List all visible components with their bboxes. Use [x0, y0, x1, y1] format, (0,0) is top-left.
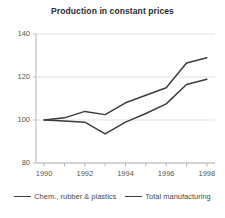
legend-line-swatch	[14, 196, 31, 197]
legend-label: Chem., rubber & plastics	[34, 192, 116, 201]
y-axis-tick-label: 100	[8, 115, 30, 124]
x-axis-tick-label: 1994	[111, 169, 141, 178]
series-line-1	[44, 79, 207, 134]
x-axis-tick-label: 1996	[151, 169, 181, 178]
legend-item[interactable]: Total manufacturing	[125, 192, 210, 201]
y-axis-tick-label: 120	[8, 72, 30, 81]
legend-item[interactable]: Chem., rubber & plastics	[14, 192, 116, 201]
x-axis-tick-label: 1990	[29, 169, 59, 178]
chart-legend: Chem., rubber & plasticsTotal manufactur…	[0, 192, 225, 201]
plot-svg	[0, 0, 225, 180]
chart-container: Production in constant prices 8010012014…	[0, 0, 225, 218]
legend-label: Total manufacturing	[145, 192, 210, 201]
plot-area: 8010012014019901992199419961998	[0, 0, 225, 180]
x-axis-tick-label: 1992	[70, 169, 100, 178]
x-axis-tick-label: 1998	[192, 169, 222, 178]
legend-line-swatch	[125, 196, 142, 197]
y-axis-tick-label: 140	[8, 29, 30, 38]
y-axis-tick-label: 80	[8, 158, 30, 167]
